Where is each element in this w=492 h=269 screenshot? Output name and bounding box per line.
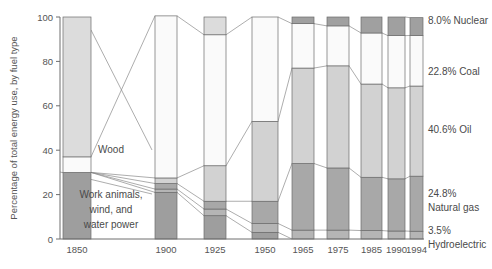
bar-column [204, 17, 226, 239]
x-axis-tick-label: 1975 [327, 244, 348, 255]
y-axis-tick-label: 20 [42, 189, 53, 200]
bar-segment [361, 33, 382, 84]
bar-segment [252, 201, 278, 223]
leader-line [91, 30, 152, 150]
y-axis-tick-label: 80 [42, 56, 53, 67]
bar-segment [155, 178, 177, 184]
bar-segment [155, 192, 177, 239]
y-axis-tick-label: 0 [48, 234, 53, 245]
bar-segment [204, 35, 226, 166]
inline-label-wood: Wood [98, 144, 124, 155]
bar-column [252, 17, 278, 239]
bar-segment [410, 18, 423, 36]
bar-segment [327, 168, 349, 230]
bar-segment [292, 68, 314, 163]
bar-segment [388, 17, 405, 36]
right-label-hydroelectric-name: Hydroelectric [428, 239, 486, 250]
bar-segment [252, 17, 278, 121]
inline-label-work-animals-3: water power [83, 219, 139, 230]
bar-segment [361, 231, 382, 239]
bar-segment [361, 177, 382, 230]
bar-segment [204, 216, 226, 239]
bar-segment [327, 66, 349, 168]
bar-segment [292, 230, 314, 239]
x-axis-tick-label: 1965 [292, 244, 313, 255]
bar-segment [388, 231, 405, 239]
bar-segment [292, 17, 314, 24]
x-axis-tick-label: 1850 [66, 244, 87, 255]
bar-segment [204, 17, 226, 35]
bar-column [388, 17, 405, 239]
bar-segment [388, 88, 405, 179]
bar-segment [292, 164, 314, 231]
y-axis-tick-label: 100 [37, 12, 53, 23]
bar-segment [204, 166, 226, 202]
bar-segment [252, 223, 278, 232]
bar-segment [155, 189, 177, 192]
y-axis-tick-label: 60 [42, 100, 53, 111]
bar-column [361, 17, 382, 239]
bar-segment [410, 176, 423, 231]
bar-segment [252, 121, 278, 201]
labels-group: WoodWork animals,wind, andwater power8.0… [79, 15, 488, 250]
bar-column [327, 17, 349, 239]
bar-segment [388, 36, 405, 88]
bar-segment [63, 157, 91, 173]
bar-segment [63, 17, 91, 157]
bar-segment [361, 17, 382, 33]
bar-segment [252, 232, 278, 239]
right-label-coal: 22.8% Coal [428, 66, 480, 77]
bar-segment [410, 35, 423, 86]
x-axis-tick-label: 1990 [386, 244, 407, 255]
x-axis-tick-label: 1994 [406, 244, 427, 255]
right-label-hydroelectric-value: 3.5% [428, 225, 451, 236]
bar-column [292, 17, 314, 239]
bar-segment [204, 209, 226, 216]
x-axis-tick-label: 1950 [254, 244, 275, 255]
bar-segment [327, 17, 349, 26]
bar-column [63, 17, 91, 239]
x-axis-tick-label: 1900 [155, 244, 176, 255]
bar-segment [361, 84, 382, 177]
x-axis-tick-label: 1925 [204, 244, 225, 255]
right-label-natural-gas-value: 24.8% [428, 188, 456, 199]
bar-segment [388, 179, 405, 231]
bar-segment [292, 24, 314, 68]
x-axis-tick-label: 1985 [361, 244, 382, 255]
bar-segment [327, 230, 349, 239]
inline-label-work-animals-1: Work animals, [79, 189, 142, 200]
bar-segment [155, 16, 177, 178]
right-label-natural-gas-name: Natural gas [428, 202, 479, 213]
right-label-nuclear: 8.0% Nuclear [428, 15, 489, 26]
bar-column [410, 18, 423, 239]
chart-canvas: 0204060801001850190019251950196519751985… [0, 0, 492, 269]
bar-segment [155, 184, 177, 190]
right-label-oil: 40.6% Oil [428, 124, 471, 135]
y-axis-tick-label: 40 [42, 145, 53, 156]
stacked-area-bar-chart: 0204060801001850190019251950196519751985… [0, 0, 492, 269]
bar-segment [410, 231, 423, 239]
bar-segment [204, 201, 226, 209]
inline-label-work-animals-2: wind, and [89, 204, 133, 215]
bar-segment [327, 26, 349, 66]
bar-column [155, 16, 177, 239]
y-axis-title: Percentage of total energy use, by fuel … [8, 36, 19, 219]
bar-segment [410, 86, 423, 176]
